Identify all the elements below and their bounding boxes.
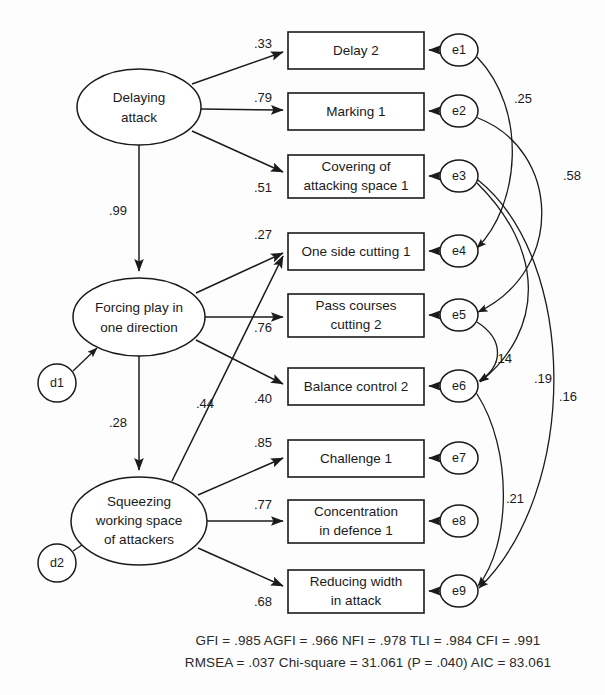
correlation-coefficient-19: .19	[534, 371, 552, 386]
error-label-e1: e1	[452, 43, 466, 57]
error-term-e7[interactable]: e7	[440, 442, 478, 474]
structural-path-F1-F2: .99	[109, 145, 139, 271]
error-term-e8[interactable]: e8	[440, 505, 478, 537]
disturbance-d1[interactable]: d1	[38, 364, 76, 402]
correlation-coefficient-58: .58	[563, 168, 581, 183]
disturbance-path-d1	[73, 348, 97, 371]
correlation-arc-e1-e4: .25	[477, 57, 532, 248]
indicator-box-delay-2[interactable]: Delay 2	[288, 32, 424, 69]
error-term-e2[interactable]: e2	[440, 95, 478, 127]
loading-coefficient-77: .77	[254, 497, 272, 512]
indicator-box-pass-courses-cutting-2[interactable]: Pass courses cutting 2	[288, 294, 424, 337]
error-label-e9: e9	[452, 584, 466, 598]
indicator-box-concentration-in-defence-1[interactable]: Concentration in defence 1	[288, 500, 424, 543]
loading-path-F1-V1: .33	[192, 36, 283, 84]
loading-coefficient-79: .79	[254, 90, 272, 105]
disturbance-label-d1: d1	[50, 376, 64, 390]
loading-path-F3-V8: .77	[207, 497, 283, 521]
sem-diagram-page: .99 .28 .33 .79 .51 .27	[0, 0, 605, 695]
error-term-e1[interactable]: e1	[440, 34, 478, 66]
error-term-e6[interactable]: e6	[440, 370, 478, 402]
error-label-e3: e3	[452, 169, 466, 183]
structural-coefficient-28: .28	[109, 415, 127, 430]
error-term-e5[interactable]: e5	[440, 299, 478, 331]
error-term-e4[interactable]: e4	[440, 235, 478, 267]
disturbance-label-d2: d2	[50, 556, 64, 570]
latent-label-F2-line1: Forcing play in	[95, 300, 183, 315]
error-term-e3[interactable]: e3	[440, 160, 478, 192]
loading-coefficient-44: .44	[196, 396, 214, 411]
loading-path-F3-V7: .85	[198, 435, 283, 495]
indicator-label-V5-line2: cutting 2	[330, 317, 381, 332]
indicator-box-marking-1[interactable]: Marking 1	[288, 93, 424, 130]
latent-variable-delaying-attack[interactable]: Delaying attack	[77, 69, 201, 145]
indicator-box-challenge-1[interactable]: Challenge 1	[288, 440, 424, 477]
structural-path-F2-F3: .28	[109, 356, 139, 470]
loading-coefficient-85: .85	[254, 435, 272, 450]
loading-coefficient-51: .51	[254, 180, 272, 195]
indicator-label-V9-line1: Reducing width	[310, 574, 402, 589]
indicator-label-V1-line1: Delay 2	[333, 43, 379, 58]
fit-statistics-line-2: RMSEA = .037 Chi-square = 31.061 (P = .0…	[185, 655, 551, 670]
correlation-arc-e2-e5: .58	[478, 118, 581, 312]
indicator-label-V3-line1: Covering of	[321, 159, 390, 174]
error-label-e2: e2	[452, 104, 466, 118]
correlation-arc-e6-e9: .21	[477, 394, 524, 586]
error-label-e4: e4	[452, 244, 466, 258]
indicator-label-V9-line2: in attack	[331, 593, 382, 608]
loading-coefficient-68: .68	[254, 594, 272, 609]
indicator-box-balance-control-2[interactable]: Balance control 2	[288, 368, 424, 405]
latent-label-F1-line2: attack	[121, 110, 157, 125]
latent-variable-forcing-play[interactable]: Forcing play in one direction	[73, 278, 205, 356]
latent-label-F3-line3: of attackers	[104, 532, 174, 547]
error-label-e6: e6	[452, 379, 466, 393]
indicator-label-V7-line1: Challenge 1	[320, 451, 392, 466]
latent-label-F3-line1: Squeezing	[107, 494, 171, 509]
correlation-arc-e3-e9: .16	[478, 180, 577, 588]
indicator-label-V4-line1: One side cutting 1	[302, 244, 411, 259]
fit-statistics: GFI = .985 AGFI = .966 NFI = .978 TLI = …	[185, 633, 551, 670]
path-diagram-canvas: .99 .28 .33 .79 .51 .27	[0, 0, 605, 695]
indicator-label-V2-line1: Marking 1	[326, 104, 385, 119]
loading-coefficient-76: .76	[254, 320, 272, 335]
correlation-coefficient-25: .25	[514, 91, 532, 106]
indicator-label-V8-line1: Concentration	[314, 504, 398, 519]
error-label-e7: e7	[452, 451, 466, 465]
correlation-arc-e5-e6: .14	[477, 322, 512, 381]
loading-coefficient-27: .27	[254, 227, 272, 242]
fit-statistics-line-1: GFI = .985 AGFI = .966 NFI = .978 TLI = …	[196, 633, 541, 648]
disturbance-d2[interactable]: d2	[38, 544, 76, 582]
indicator-label-V6-line1: Balance control 2	[304, 379, 408, 394]
loading-path-F1-V2: .79	[201, 90, 283, 110]
indicator-box-covering-attacking-space-1[interactable]: Covering of attacking space 1	[288, 155, 424, 198]
error-label-e5: e5	[452, 308, 466, 322]
error-label-e8: e8	[452, 514, 466, 528]
loading-coefficient-40: .40	[254, 391, 272, 406]
structural-coefficient-99: .99	[109, 203, 127, 218]
error-term-e9[interactable]: e9	[440, 575, 478, 607]
indicator-label-V3-line2: attacking space 1	[303, 178, 408, 193]
latent-variable-squeezing-space[interactable]: Squeezing working space of attackers	[71, 477, 207, 565]
loading-coefficient-33: .33	[254, 36, 272, 51]
correlation-coefficient-21: .21	[506, 491, 524, 506]
indicator-box-one-side-cutting-1[interactable]: One side cutting 1	[288, 233, 424, 270]
loading-path-F3-V9: .68	[198, 548, 283, 609]
indicator-label-V5-line1: Pass courses	[315, 298, 396, 313]
indicator-box-reducing-width-in-attack[interactable]: Reducing width in attack	[288, 570, 424, 613]
latent-label-F2-line2: one direction	[100, 320, 177, 335]
latent-label-F3-line2: working space	[95, 513, 182, 528]
loading-path-F2-V5: .76	[205, 317, 283, 335]
correlation-coefficient-16: .16	[559, 389, 577, 404]
indicator-label-V8-line2: in defence 1	[319, 523, 393, 538]
loading-path-F1-V3: .51	[192, 131, 283, 195]
latent-label-F1-line1: Delaying	[113, 90, 166, 105]
